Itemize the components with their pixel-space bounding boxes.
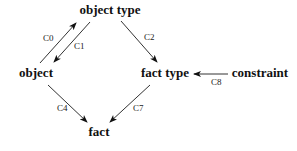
node-fact-type: fact type	[141, 65, 189, 80]
edge-c7: C7	[110, 85, 150, 122]
node-fact: fact	[89, 124, 111, 139]
edge-label-c4: C4	[57, 103, 68, 113]
edge-c4: C4	[48, 85, 87, 122]
edge-c2: C2	[121, 21, 157, 62]
node-object: object	[19, 65, 54, 80]
arrow-c7	[110, 85, 150, 122]
edge-label-c1: C1	[74, 41, 85, 51]
edge-label-c0: C0	[43, 33, 54, 43]
node-object-type: object type	[79, 2, 140, 17]
nodes-layer: object typeobjectfact typeconstraintfact	[19, 2, 289, 139]
node-constraint: constraint	[232, 65, 289, 80]
edge-label-c7: C7	[133, 103, 144, 113]
edges-layer: C0C1C2C8C4C7	[40, 21, 228, 122]
edge-c8: C8	[194, 74, 228, 87]
edge-label-c8: C8	[211, 77, 222, 87]
concept-diagram: C0C1C2C8C4C7 object typeobjectfact typec…	[0, 0, 297, 151]
edge-label-c2: C2	[144, 32, 155, 42]
